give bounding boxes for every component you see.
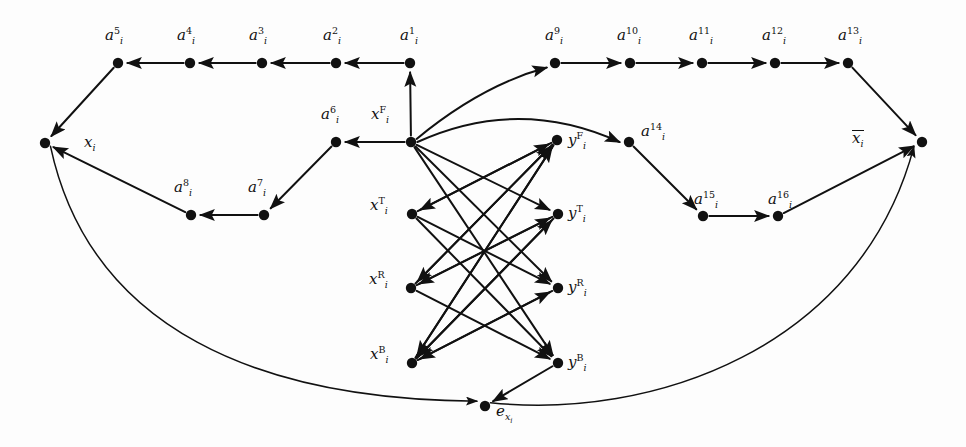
node-label-a8: a8i: [174, 178, 192, 198]
graph-edge: [852, 68, 915, 135]
graph-node-xbar: [917, 137, 927, 147]
graph-node-xT: [407, 209, 417, 219]
graph-node-yB: [553, 358, 563, 368]
graph-node-ex: [480, 401, 490, 411]
node-label-a3: a3i: [249, 26, 267, 46]
graph-edge: [420, 143, 551, 210]
node-label-a13: a13i: [838, 26, 862, 46]
graph-edge: [417, 68, 547, 139]
graph-edge: [493, 366, 552, 401]
node-label-a16: a16i: [768, 190, 792, 210]
node-label-yB: yBi: [568, 353, 587, 373]
node-label-a12: a12i: [762, 26, 786, 46]
graph-node-a15: [698, 211, 708, 221]
node-label-a4: a4i: [177, 26, 195, 46]
node-label-a6: a6i: [321, 105, 339, 125]
graph-edge: [634, 147, 697, 210]
graph-edge: [271, 147, 332, 209]
node-layer: [40, 58, 927, 411]
node-label-xR: xRi: [369, 270, 388, 290]
node-label-a1: a1i: [400, 26, 418, 46]
graph-node-a2: [331, 58, 341, 68]
node-label-a5: a5i: [105, 26, 123, 46]
graph-edge: [51, 68, 113, 136]
graph-node-a5: [113, 58, 123, 68]
graph-node-a10: [625, 58, 635, 68]
graph-figure: a5ia4ia3ia2ia1ia9ia10ia11ia12ia13ixia6ix…: [0, 0, 966, 447]
graph-node-a6: [331, 137, 341, 147]
graph-node-xF: [406, 137, 416, 147]
node-label-a7: a7i: [248, 178, 266, 198]
graph-node-a11: [697, 58, 707, 68]
graph-node-xi: [40, 138, 50, 148]
node-label-yT: yTi: [568, 204, 586, 224]
graph-node-a3: [257, 58, 267, 68]
graph-edge: [54, 147, 186, 212]
node-label-xB: xBi: [370, 345, 389, 365]
node-label-xT: xTi: [370, 196, 388, 216]
graph-node-a13: [843, 58, 853, 68]
node-label-xbar: xi: [852, 130, 864, 149]
edge-layer: [50, 63, 915, 405]
graph-edge: [417, 119, 619, 142]
node-label-a10: a10i: [617, 26, 641, 46]
graph-node-yF: [552, 135, 562, 145]
graph-node-a9: [550, 58, 560, 68]
graph-node-xB: [407, 358, 417, 368]
graph-canvas: [0, 0, 966, 447]
graph-edge: [490, 147, 913, 405]
graph-node-yT: [553, 209, 563, 219]
node-label-a11: a11i: [689, 26, 713, 46]
graph-edge: [410, 72, 411, 135]
graph-node-a7: [259, 210, 269, 220]
node-label-xF: xFi: [371, 105, 389, 125]
node-label-a9: a9i: [545, 26, 563, 46]
graph-node-a14: [624, 137, 634, 147]
graph-edge: [418, 145, 553, 282]
graph-node-yR: [553, 283, 563, 293]
node-label-a15: a15i: [694, 190, 718, 210]
node-label-yR: yRi: [568, 278, 587, 298]
graph-node-a8: [186, 210, 196, 220]
graph-edge: [419, 219, 554, 357]
graph-node-xR: [406, 283, 416, 293]
node-label-a14: a14i: [641, 122, 665, 142]
node-label-ex: exi: [496, 404, 513, 425]
graph-edge: [416, 219, 551, 357]
graph-node-a12: [770, 58, 780, 68]
node-label-yF: yFi: [568, 131, 586, 151]
node-label-a2: a2i: [323, 26, 341, 46]
node-label-xi: xi: [84, 135, 96, 153]
graph-node-a16: [773, 211, 783, 221]
graph-node-a1: [405, 58, 415, 68]
graph-node-a4: [185, 58, 195, 68]
